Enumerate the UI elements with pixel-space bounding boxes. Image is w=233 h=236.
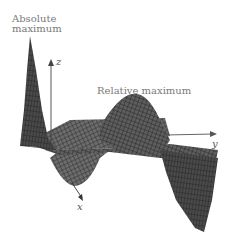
absolute-maximum-line2: maximum: [12, 24, 62, 34]
right-descending-sheet: [160, 150, 218, 232]
x-axis-label: x: [77, 202, 83, 212]
y-axis-label: y: [212, 139, 218, 149]
y-axis: [165, 131, 217, 137]
relative-maximum-hump: [100, 94, 170, 150]
absolute-maximum-label: Absolute maximum: [12, 14, 62, 34]
z-axis-label: z: [56, 57, 61, 67]
x-axis: [72, 183, 83, 201]
relative-maximum-label: Relative maximum: [97, 86, 191, 96]
surface-mesh: [0, 0, 233, 236]
trough-surface: [50, 150, 110, 186]
surface-plot-figure: Absolute maximum Relative maximum z y x: [0, 0, 233, 236]
